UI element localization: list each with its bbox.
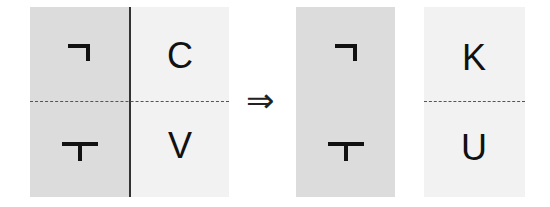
implies-arrow-icon: ⇒: [246, 82, 275, 118]
right-letter-panel: [424, 7, 525, 197]
u-jamo-glyph-icon: [328, 142, 366, 164]
letter-u: U: [424, 128, 524, 168]
u-jamo-glyph-icon: [62, 142, 100, 164]
giyeok-glyph-icon: [68, 44, 92, 64]
letter-c: C: [130, 36, 230, 76]
letter-v: V: [130, 126, 230, 166]
letter-k: K: [424, 38, 524, 78]
middle-glyph-panel: [296, 7, 395, 197]
left-group-dashed-divider: [30, 101, 229, 102]
right-panel-dashed-divider: [424, 101, 525, 102]
left-group-glyph-column: [30, 7, 129, 197]
giyeok-glyph-icon: [335, 44, 359, 64]
